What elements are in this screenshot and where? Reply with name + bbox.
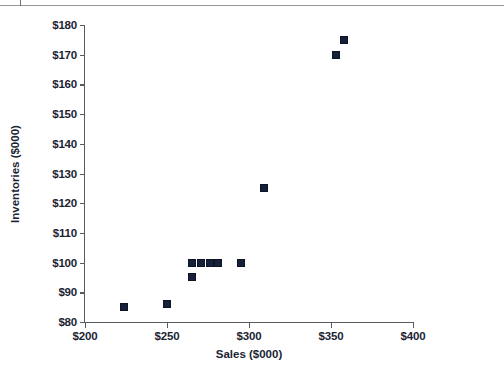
- y-axis-tick: [80, 203, 85, 204]
- y-axis-tick: [80, 263, 85, 264]
- x-axis-tick-label: $350: [319, 330, 344, 342]
- data-point-marker: [188, 273, 196, 281]
- x-axis-tick: [331, 322, 332, 328]
- data-point-marker: [120, 303, 128, 311]
- y-axis-tick: [80, 55, 85, 56]
- y-axis-tick-label: $170: [52, 49, 77, 61]
- x-axis-tick: [249, 322, 250, 328]
- plot-area: $80$90$100$110$120$130$140$150$160$170$1…: [85, 25, 413, 322]
- data-point-marker: [340, 36, 348, 44]
- x-axis-tick-label: $250: [155, 330, 180, 342]
- y-axis-tick-label: $90: [58, 286, 77, 298]
- x-axis-title: Sales ($000): [85, 348, 413, 360]
- y-axis-tick-label: $150: [52, 108, 77, 120]
- y-axis-tick-label: $110: [53, 227, 77, 239]
- y-axis-tick-label: $160: [52, 78, 77, 90]
- data-point-marker: [188, 259, 196, 267]
- y-axis-tick-label: $140: [52, 138, 77, 150]
- scan-artifact-tick: [20, 0, 21, 6]
- y-axis-tick-label: $180: [52, 19, 77, 31]
- y-axis-tick: [80, 114, 85, 115]
- y-axis-title: Inventories ($000): [6, 25, 24, 322]
- y-axis-tick: [80, 292, 85, 293]
- scatter-plot-figure: Inventories ($000) $80$90$100$110$120$13…: [0, 0, 504, 374]
- y-axis-tick: [80, 25, 85, 26]
- y-axis-tick: [80, 144, 85, 145]
- y-axis-tick-label: $120: [52, 197, 77, 209]
- x-axis-tick-label: $300: [237, 330, 262, 342]
- data-point-marker: [332, 51, 340, 59]
- y-axis-tick: [80, 84, 85, 85]
- y-axis-tick-label: $80: [58, 316, 77, 328]
- x-axis-tick-label: $200: [73, 330, 98, 342]
- data-point-marker: [197, 259, 205, 267]
- x-axis-tick-label: $400: [401, 330, 426, 342]
- data-point-marker: [237, 259, 245, 267]
- y-axis-tick-label: $100: [52, 257, 77, 269]
- scan-artifact-line: [0, 5, 504, 6]
- data-point-marker: [163, 300, 171, 308]
- y-axis-tick-label: $130: [52, 168, 77, 180]
- x-axis-tick: [85, 322, 86, 328]
- x-axis-tick: [167, 322, 168, 328]
- data-point-marker: [260, 184, 268, 192]
- y-axis-tick: [80, 233, 85, 234]
- data-point-marker: [214, 259, 222, 267]
- data-point-marker: [206, 259, 214, 267]
- y-axis-tick: [80, 174, 85, 175]
- y-axis-title-label: Inventories ($000): [9, 125, 21, 223]
- x-axis-tick: [413, 322, 414, 328]
